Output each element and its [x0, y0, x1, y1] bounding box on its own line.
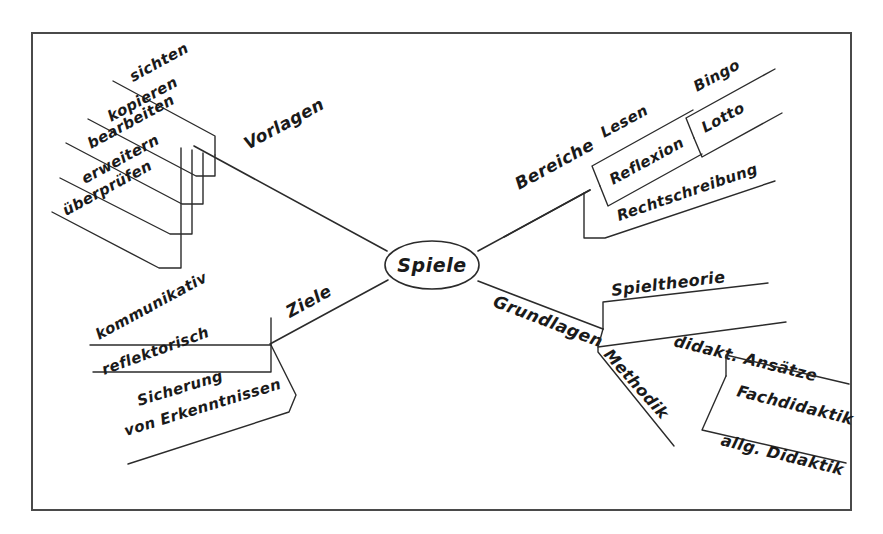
branch-vorlagen-label: Vorlagen [240, 94, 327, 154]
branch-ziele-label: Ziele [281, 281, 335, 322]
child-label-reflexion: Reflexion [606, 133, 687, 188]
branch-bereiche-line-outer [504, 190, 590, 237]
branch-grundlagen[interactable]: Grundlagen Spieltheorie didakt. Ansätze … [478, 267, 856, 479]
mindmap-canvas: Spiele Vorlagen sichten kopieren bearbei… [0, 0, 883, 534]
branch-bereiche-label: Bereiche [511, 134, 597, 193]
branch-vorlagen[interactable]: Vorlagen sichten kopieren bearbeiten erw… [52, 39, 387, 268]
branch-ziele[interactable]: Ziele kommunikativ reflektorisch Sicheru… [90, 268, 388, 464]
child-label-allg-didaktik: allg. Didaktik [719, 430, 847, 479]
child-label-didakt-ansaetze: didakt. Ansätze [672, 331, 819, 385]
branch-bereiche[interactable]: Bereiche Lesen Bingo Lotto Reflexion Rec… [478, 56, 782, 251]
child-label-bingo: Bingo [690, 56, 743, 96]
child-label-methodik: Methodik [600, 345, 673, 424]
child-label-sichten: sichten [126, 39, 191, 86]
child-label-fachdidaktik: Fachdidaktik [735, 381, 856, 428]
branch-grundlagen-label: Grundlagen [491, 291, 606, 351]
center-node[interactable]: Spiele [385, 241, 479, 289]
mindmap-page: Spiele Vorlagen sichten kopieren bearbei… [0, 0, 883, 534]
center-node-label: Spiele [397, 254, 467, 276]
child-label-lotto: Lotto [698, 99, 747, 137]
child-label-lesen: Lesen [597, 101, 651, 141]
branch-vorlagen-line [194, 146, 387, 251]
